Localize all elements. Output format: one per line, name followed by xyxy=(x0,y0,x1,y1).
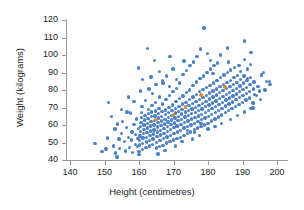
data-point xyxy=(144,99,147,102)
data-point xyxy=(251,101,254,104)
data-point xyxy=(190,112,193,115)
data-point xyxy=(158,139,161,142)
data-point xyxy=(198,134,201,137)
data-point xyxy=(123,140,126,143)
data-point xyxy=(132,123,135,126)
data-point xyxy=(206,127,209,130)
data-point xyxy=(112,144,115,147)
data-point xyxy=(256,85,259,88)
data-point xyxy=(163,149,166,152)
data-point xyxy=(154,101,157,104)
data-point xyxy=(156,152,159,155)
data-point xyxy=(214,99,217,102)
data-point xyxy=(127,95,130,98)
data-point xyxy=(135,117,138,120)
data-point xyxy=(242,81,245,84)
data-point xyxy=(246,77,249,80)
data-point xyxy=(236,74,239,77)
data-point xyxy=(252,87,255,90)
data-point xyxy=(215,93,218,96)
data-point xyxy=(161,81,164,84)
data-point xyxy=(118,147,121,150)
data-point xyxy=(154,83,157,86)
data-point xyxy=(229,68,232,71)
data-point xyxy=(249,76,252,79)
data-point xyxy=(204,111,207,114)
data-point xyxy=(227,60,230,63)
data-point xyxy=(186,129,189,132)
data-point-highlighted xyxy=(172,113,176,117)
data-point xyxy=(211,72,214,75)
data-point xyxy=(263,88,266,91)
data-point xyxy=(171,90,174,93)
data-point xyxy=(210,113,213,116)
data-point xyxy=(243,110,246,113)
data-point xyxy=(245,86,248,89)
data-point xyxy=(249,63,252,66)
data-point xyxy=(113,127,116,130)
data-point xyxy=(191,95,194,98)
data-point xyxy=(252,80,255,83)
data-point xyxy=(241,94,244,97)
data-point xyxy=(205,71,208,74)
data-point xyxy=(194,100,197,103)
data-point xyxy=(198,77,201,80)
data-point xyxy=(124,149,127,152)
data-point xyxy=(212,64,215,67)
data-point xyxy=(195,80,198,83)
data-point xyxy=(215,79,218,82)
data-point xyxy=(174,100,177,103)
data-point xyxy=(146,47,149,50)
data-point xyxy=(220,113,223,116)
data-point xyxy=(139,89,142,92)
data-point xyxy=(140,105,143,108)
data-point xyxy=(168,85,171,88)
data-point xyxy=(209,67,212,70)
data-point xyxy=(178,97,181,100)
data-point xyxy=(189,130,192,133)
data-point xyxy=(221,89,224,92)
data-point xyxy=(164,98,167,101)
data-point xyxy=(171,67,174,70)
data-point xyxy=(125,110,128,113)
data-point xyxy=(175,124,178,127)
data-point xyxy=(235,92,238,95)
data-point xyxy=(232,76,235,79)
data-point xyxy=(239,70,242,73)
data-point xyxy=(93,142,96,145)
data-point xyxy=(193,130,196,133)
data-point xyxy=(161,102,164,105)
data-point xyxy=(213,125,216,128)
data-point xyxy=(178,81,181,84)
data-point xyxy=(110,115,113,118)
data-point xyxy=(236,114,239,117)
data-point xyxy=(121,120,124,123)
data-point xyxy=(191,137,194,140)
data-point xyxy=(182,59,185,62)
data-point xyxy=(226,46,229,49)
data-point xyxy=(180,140,183,143)
data-point xyxy=(168,55,171,58)
plot-area xyxy=(0,0,304,210)
data-point xyxy=(174,144,177,147)
data-point xyxy=(132,100,135,103)
data-point xyxy=(134,133,137,136)
data-point xyxy=(100,150,103,153)
data-point xyxy=(220,122,223,125)
y-axis-title: Weight (kilograms) xyxy=(14,13,25,163)
data-point xyxy=(151,137,154,140)
data-point xyxy=(229,118,232,121)
scatter-chart: 405060708090100110120 140150160170180190… xyxy=(0,0,304,210)
data-point xyxy=(117,137,120,140)
data-point xyxy=(268,83,271,86)
data-point xyxy=(202,74,205,77)
data-point xyxy=(191,84,194,87)
data-point xyxy=(248,83,251,86)
data-point xyxy=(222,73,225,76)
data-point xyxy=(219,53,222,56)
data-point xyxy=(199,47,202,50)
data-point xyxy=(158,95,161,98)
data-point xyxy=(115,155,118,158)
data-point xyxy=(125,126,128,129)
data-point xyxy=(158,70,161,73)
